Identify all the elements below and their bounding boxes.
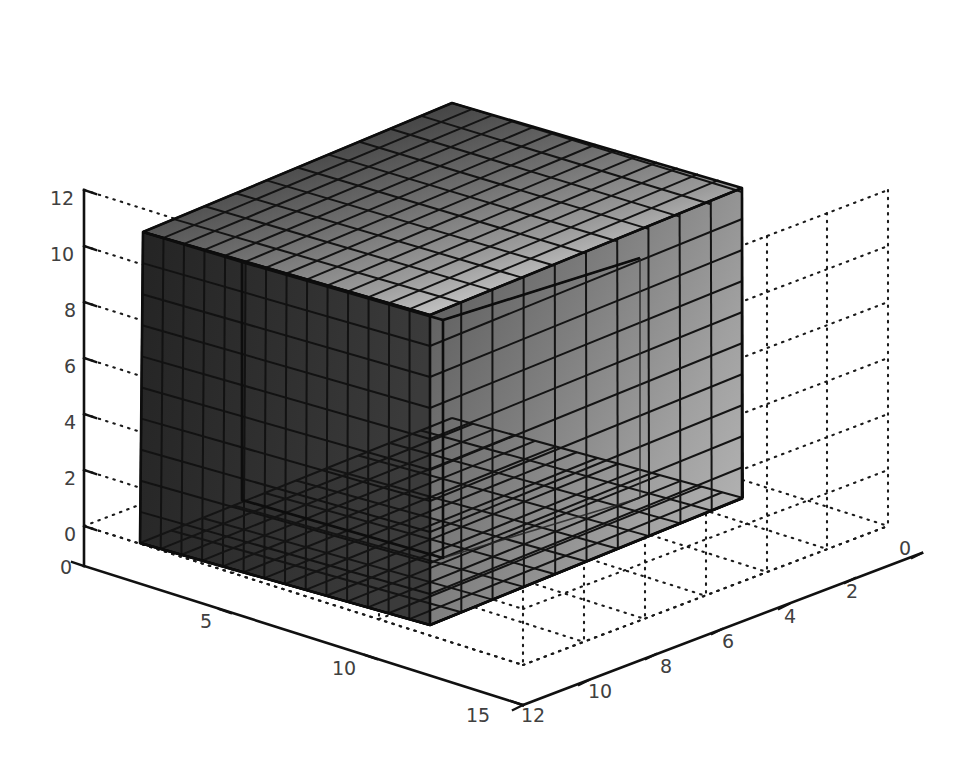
x-tick <box>72 562 84 566</box>
y-tick-label: 4 <box>784 607 796 626</box>
y-tick-label: 2 <box>846 582 858 601</box>
z-tick <box>84 414 96 418</box>
z-tick <box>84 526 96 530</box>
surface-plot-3d <box>0 0 961 767</box>
z-tick-label: 2 <box>64 469 76 488</box>
z-tick-label: 12 <box>50 189 74 208</box>
z-tick <box>84 302 96 306</box>
x-tick-label: 15 <box>466 706 490 725</box>
surface-object <box>140 103 743 625</box>
x-tick-label: 10 <box>332 659 356 678</box>
y-tick-label: 6 <box>722 632 734 651</box>
figure-canvas: 12 10 8 6 4 2 0 0 5 10 15 0 12 10 8 6 4 … <box>0 0 961 767</box>
z-tick-label: 10 <box>50 245 74 264</box>
z-tick <box>84 358 96 362</box>
y-tick-label: 8 <box>660 657 672 676</box>
y-tick-label: 10 <box>588 682 612 701</box>
z-tick-label: 0 <box>64 525 76 544</box>
z-tick-label: 8 <box>64 301 76 320</box>
y-tick-label: 12 <box>521 706 545 725</box>
x-tick-label: 0 <box>60 558 72 577</box>
z-tick-label: 4 <box>64 413 76 432</box>
z-tick-label: 6 <box>64 357 76 376</box>
z-tick <box>84 470 96 474</box>
x-tick-label: 5 <box>200 612 212 631</box>
z-tick <box>84 246 96 250</box>
z-tick <box>84 190 96 194</box>
y-tick-label: 0 <box>899 539 911 558</box>
